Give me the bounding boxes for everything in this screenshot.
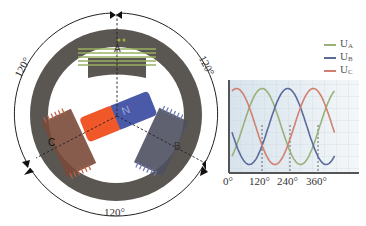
x-tick-0: 0° [223,175,233,187]
x-tick-240: 240° [277,175,298,187]
stator-rotor-svg [0,0,366,226]
generator-diagram: A B C N 120° 120° 120° UA UB UC 0° 120° … [0,0,366,226]
coil-label-b: B [174,142,181,152]
angle-label-bottom: 120° [104,207,125,218]
coil-label-a: A [114,44,121,54]
chart-legend: UA UB UC [324,38,366,77]
coil-label-c: C [48,138,55,148]
voltage-chart [229,80,359,173]
x-tick-360: 360° [306,175,327,187]
legend-item-uc: UC [324,64,366,77]
x-tick-120: 120° [249,175,270,187]
